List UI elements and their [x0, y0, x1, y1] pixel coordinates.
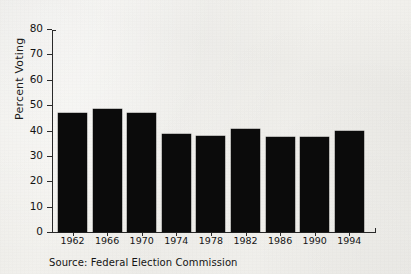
y-axis-tick-label: 20: [30, 174, 43, 186]
y-axis-tick: 80: [47, 29, 52, 30]
y-axis-line: [52, 30, 53, 233]
y-axis-tick: 30: [47, 156, 52, 157]
y-axis-tick: 0: [47, 232, 52, 233]
y-axis-tick-label: 50: [30, 98, 43, 110]
y-axis-tick: 60: [47, 80, 52, 81]
x-axis-line: [52, 232, 376, 233]
y-axis-tick-label: 10: [30, 200, 43, 212]
x-axis-right-cap: [375, 228, 376, 233]
bar: [162, 134, 191, 232]
bar: [93, 109, 122, 232]
y-axis-tick-label: 70: [30, 47, 43, 59]
bar: [231, 129, 260, 232]
y-axis-top-cap: [52, 30, 56, 31]
y-axis-tick: 50: [47, 105, 52, 106]
bar-chart-figure: Percent Voting 01020304050607080 1962196…: [0, 0, 411, 274]
y-axis-tick: 70: [47, 54, 52, 55]
y-axis-tick: 10: [47, 207, 52, 208]
bar: [266, 137, 295, 232]
y-axis-tick: 40: [47, 131, 52, 132]
y-axis-tick: 20: [47, 181, 52, 182]
bar: [196, 136, 225, 232]
source-note: Source: Federal Election Commission: [49, 257, 238, 268]
y-axis-tick-label: 80: [30, 22, 43, 34]
bar: [335, 131, 364, 233]
bar: [300, 137, 329, 232]
y-axis-tick-label: 30: [30, 149, 43, 161]
y-axis-tick-label: 60: [30, 73, 43, 85]
x-axis-tick-label: 1994: [329, 235, 369, 246]
bar: [127, 113, 156, 232]
y-axis-label: Percent Voting: [13, 10, 26, 120]
plot-area: 01020304050607080 1962196619701974197819…: [52, 30, 376, 233]
y-axis-tick-label: 40: [30, 124, 43, 136]
bar: [58, 113, 87, 232]
y-axis-tick-label: 0: [36, 225, 43, 237]
